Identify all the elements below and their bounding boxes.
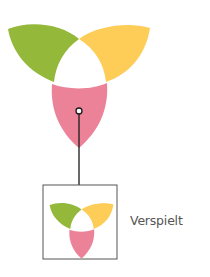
yellow-petal <box>79 25 150 82</box>
diagram: Verspielt <box>0 0 210 277</box>
style-label: Verspielt <box>130 213 183 228</box>
green-petal <box>8 24 79 82</box>
diagram-canvas <box>0 0 210 277</box>
connector-anchor <box>76 108 82 114</box>
